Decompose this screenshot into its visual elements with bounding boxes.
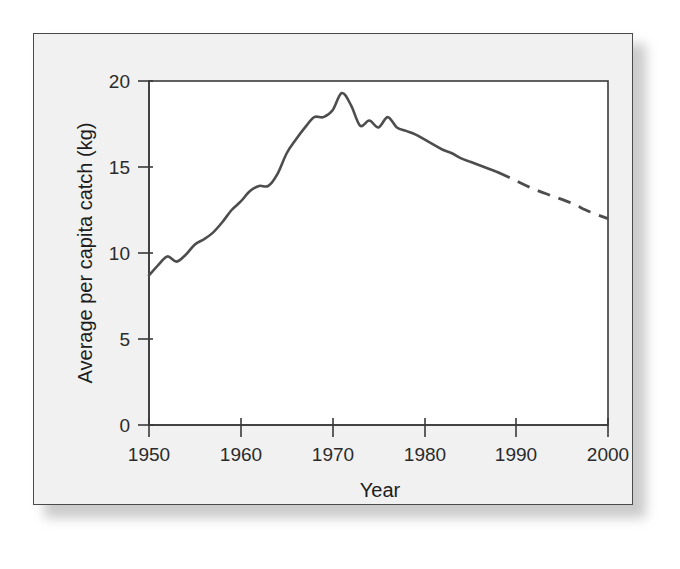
x-axis-title: Year: [360, 479, 401, 501]
chart-area: 0 5 10 15 20 1950 1960 1970 1980 1990: [0, 0, 680, 569]
line-chart-svg: 0 5 10 15 20 1950 1960 1970 1980 1990: [0, 0, 680, 569]
x-tick-label-1950: 1950: [128, 444, 170, 465]
y-tick-label-20: 20: [109, 71, 130, 92]
y-tick-label-15: 15: [109, 157, 130, 178]
x-tick-label-1990: 1990: [495, 444, 537, 465]
x-tick-label-2000: 2000: [587, 444, 629, 465]
figure-container: 0 5 10 15 20 1950 1960 1970 1980 1990: [0, 0, 680, 569]
x-tick-label-1960: 1960: [220, 444, 262, 465]
plot-frame: [149, 81, 608, 425]
y-tick-label-10: 10: [109, 243, 130, 264]
y-axis-tick-labels: 0 5 10 15 20: [109, 71, 130, 436]
y-tick-label-5: 5: [119, 329, 130, 350]
y-axis-title: Average per capita catch (kg): [74, 123, 96, 384]
x-axis-tick-labels: 1950 1960 1970 1980 1990 2000: [128, 444, 629, 465]
y-tick-label-0: 0: [119, 415, 130, 436]
x-tick-label-1970: 1970: [312, 444, 354, 465]
x-tick-label-1980: 1980: [404, 444, 446, 465]
